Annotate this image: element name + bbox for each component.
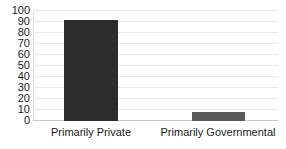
x-axis: Primarily Private Primarily Governmental <box>33 126 278 142</box>
gridline-100 <box>33 10 278 11</box>
x-axis-label-primarily-governmental: Primarily Governmental <box>153 126 283 139</box>
plot-area <box>33 10 278 121</box>
y-axis: 100 90 80 70 60 50 40 30 20 10 0 <box>0 0 30 126</box>
bar-primarily-private <box>64 20 118 121</box>
bar-primarily-governmental <box>192 112 245 121</box>
bar-chart: 100 90 80 70 60 50 40 30 20 10 0 Primari… <box>0 0 286 149</box>
x-axis-label-primarily-private: Primarily Private <box>41 126 141 139</box>
y-axis-tick-label: 0 <box>0 115 30 126</box>
